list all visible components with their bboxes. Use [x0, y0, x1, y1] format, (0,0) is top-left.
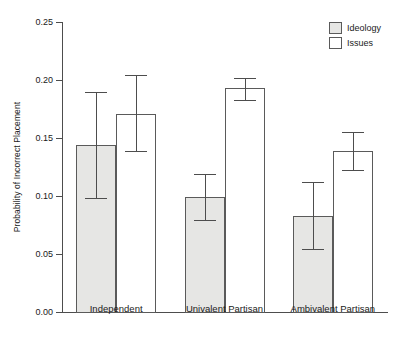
error-bar-cap-upper — [194, 174, 216, 175]
error-bar-cap-upper — [125, 75, 147, 76]
legend-item-issues: Issues — [329, 36, 381, 50]
y-tick-label: 0.05 — [35, 250, 53, 259]
error-bar-line — [353, 132, 354, 170]
error-bar-line — [313, 182, 314, 249]
y-tick-label: 0.15 — [35, 134, 53, 143]
y-tick-mark — [56, 138, 62, 139]
chart-legend: IdeologyIssues — [329, 21, 381, 50]
y-tick-mark — [56, 22, 62, 23]
error-bar-cap-lower — [194, 220, 216, 221]
error-bar-line — [245, 78, 246, 100]
x-tick-label-independent: Independent — [90, 303, 143, 314]
ideology-swatch — [329, 22, 342, 34]
error-bar-cap-upper — [85, 92, 107, 93]
error-bar-line — [96, 92, 97, 199]
error-bar-cap-lower — [234, 100, 256, 101]
y-axis-line — [62, 22, 63, 313]
y-tick-label: 0.20 — [35, 76, 53, 85]
legend-label: Issues — [347, 39, 373, 48]
y-tick-mark — [56, 196, 62, 197]
bar-issues-univalent-partisan — [225, 88, 265, 313]
plot-area: 0.000.050.100.150.200.25 — [62, 22, 387, 312]
x-tick-label-ambivalent-partisan: Ambivalent Partisan — [291, 303, 375, 314]
error-bar-cap-upper — [234, 78, 256, 79]
error-bar-line — [136, 75, 137, 150]
error-bar-cap-lower — [125, 151, 147, 152]
bar-issues-ambivalent-partisan — [333, 151, 373, 313]
y-axis-title: Probability of Incorrect Placement — [8, 22, 26, 312]
legend-label: Ideology — [347, 24, 381, 33]
y-tick-mark — [56, 312, 62, 313]
error-bar-cap-upper — [302, 182, 324, 183]
y-tick-mark — [56, 80, 62, 81]
x-tick-label-univalent-partisan: Univalent Partisan — [186, 303, 263, 314]
error-bar-cap-upper — [342, 132, 364, 133]
bar-chart-figure: Probability of Incorrect Placement 0.000… — [0, 0, 399, 357]
y-tick-mark — [56, 254, 62, 255]
error-bar-cap-lower — [342, 170, 364, 171]
y-tick-label: 0.25 — [35, 18, 53, 27]
y-tick-label: 0.10 — [35, 192, 53, 201]
y-tick-label: 0.00 — [35, 308, 53, 317]
error-bar-cap-lower — [85, 198, 107, 199]
error-bar-line — [205, 174, 206, 220]
legend-item-ideology: Ideology — [329, 21, 381, 35]
issues-swatch — [329, 37, 342, 49]
error-bar-cap-lower — [302, 249, 324, 250]
